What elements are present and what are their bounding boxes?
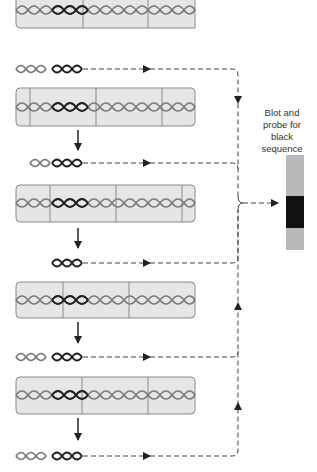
cell-strip-1 — [16, 0, 195, 28]
label-line-2: probe for — [246, 119, 317, 131]
dna-fragment-1 — [16, 66, 82, 73]
dashed-connector-bottom — [150, 210, 238, 456]
diagram-canvas — [0, 0, 317, 472]
up-arrow-icon-2 — [234, 402, 242, 410]
down-arrow-icon — [234, 96, 242, 104]
brace-point — [238, 196, 243, 210]
dna-fragment-4 — [16, 354, 82, 361]
up-arrow-icon-1 — [234, 302, 242, 310]
dna-fragment-5 — [16, 453, 82, 460]
cell-strip-4 — [16, 282, 195, 318]
cell-strip-5 — [16, 377, 195, 414]
cell-strip-3 — [16, 185, 195, 222]
gel-band — [286, 196, 304, 228]
label-line-4: sequence — [246, 143, 317, 155]
dashed-connector-2 — [150, 163, 238, 169]
dashed-connector-4 — [150, 351, 238, 357]
dna-fragment-2 — [30, 160, 82, 167]
dna-fragment-3 — [52, 260, 82, 267]
blot-gel-lane — [286, 155, 304, 250]
blot-probe-label: Blot and probe for black sequence — [246, 107, 317, 155]
label-line-1: Blot and — [246, 107, 317, 119]
label-line-3: black — [246, 131, 317, 143]
cell-strip-2 — [16, 88, 195, 126]
